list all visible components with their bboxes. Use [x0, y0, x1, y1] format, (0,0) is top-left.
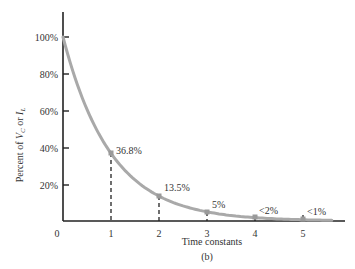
annotation-label: <1% — [307, 206, 326, 217]
y-tick-label: 80% — [40, 69, 58, 80]
annotation-label: <2% — [259, 205, 278, 216]
y-axis-label: Percent of VC or IL — [14, 108, 27, 183]
x-axis-label: Time constants — [182, 236, 243, 247]
x-tick-label: 4 — [253, 228, 258, 239]
annotation-label: 13.5% — [164, 182, 190, 193]
y-tick-label: 40% — [40, 143, 58, 154]
y-tick-label: 60% — [40, 106, 58, 117]
x-tick-label: 5 — [301, 228, 306, 239]
chart: 20% 40% 60% 80% 100% 0 1 2 3 4 5 36.8% 1… — [0, 0, 355, 269]
y-tick-label: 100% — [35, 32, 58, 43]
figure-caption: (b) — [201, 251, 213, 263]
decay-curve — [63, 37, 332, 220]
x-ticks: 0 1 2 3 4 5 — [55, 228, 306, 239]
x-tick-label: 2 — [157, 228, 162, 239]
y-ticks: 20% 40% 60% 80% 100% — [35, 32, 69, 191]
annotation-label: 36.8% — [116, 145, 142, 156]
x-tick-label: 1 — [109, 228, 114, 239]
x-tick-label: 0 — [55, 228, 60, 239]
y-tick-label: 20% — [40, 180, 58, 191]
annotation-label: 5% — [212, 199, 225, 210]
